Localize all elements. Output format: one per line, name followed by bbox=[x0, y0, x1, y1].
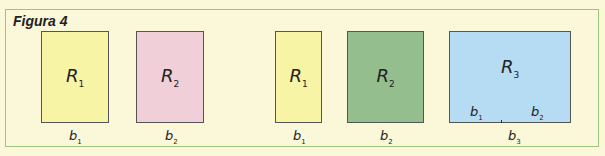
base-label: b2 bbox=[165, 128, 178, 146]
base-label: b1 bbox=[69, 128, 82, 146]
rect-g1-r2: R2 bbox=[136, 31, 204, 123]
inner-base-label: b1 bbox=[470, 104, 483, 122]
figure-title: Figura 4 bbox=[13, 13, 67, 29]
base-label: b2 bbox=[380, 128, 393, 146]
divider-tick bbox=[501, 120, 502, 123]
region-label: R2 bbox=[161, 65, 179, 89]
region-label: R2 bbox=[376, 65, 394, 89]
inner-base-label: b2 bbox=[531, 104, 544, 122]
base-label: b1 bbox=[293, 128, 306, 146]
region-label: R1 bbox=[66, 65, 84, 89]
rect-g1-r1: R1 bbox=[41, 31, 109, 123]
rect-g2-r3: R3 bbox=[449, 31, 571, 123]
rect-g2-r1: R1 bbox=[275, 31, 322, 123]
base-label: b3 bbox=[508, 128, 521, 146]
region-label: R3 bbox=[501, 56, 519, 80]
region-label: R1 bbox=[289, 65, 307, 89]
rect-g2-r2: R2 bbox=[347, 31, 424, 123]
